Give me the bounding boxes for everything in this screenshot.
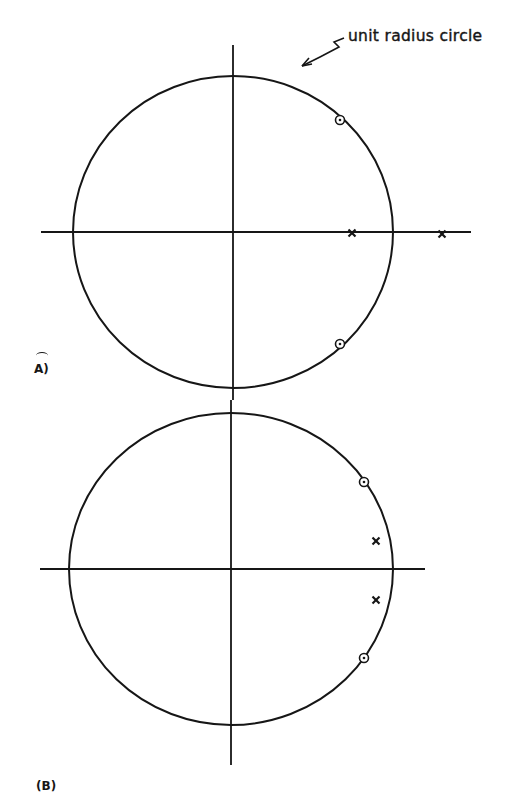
zero-marker-icon: [336, 340, 345, 349]
panel-a-unit-circle-plot: [41, 45, 471, 400]
pole-marker-icon: [373, 538, 380, 545]
panel-b-unit-circle-plot: [40, 400, 425, 765]
pole-zero-diagram: [0, 0, 526, 811]
pole-marker-icon: [373, 597, 380, 604]
panel-b-label: (B): [36, 779, 56, 793]
pole-marker-icon: [349, 230, 356, 237]
zero-marker-icon: [336, 116, 345, 125]
zero-marker-icon: [360, 478, 369, 487]
panel-a-overbar: [36, 352, 48, 359]
unit-radius-circle-annotation: unit radius circle: [348, 27, 482, 45]
annotation-leader-arrow: [302, 38, 344, 66]
zero-marker-icon: [360, 654, 369, 663]
panel-a-label: A): [34, 362, 49, 376]
